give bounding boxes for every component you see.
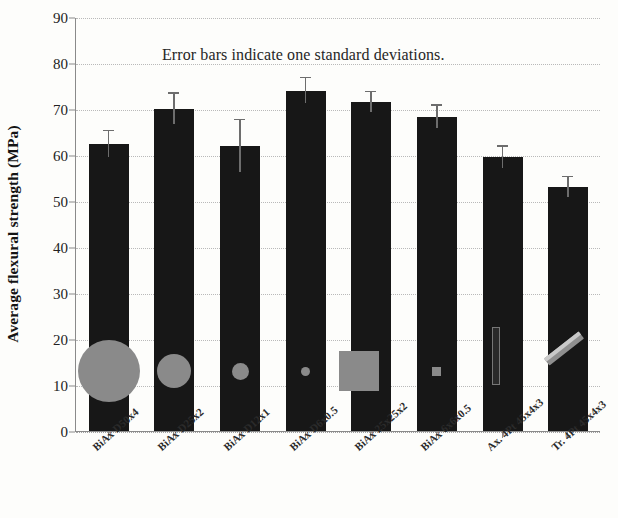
bar-group xyxy=(351,17,391,431)
bar-group xyxy=(548,17,588,431)
error-bar-cap-top xyxy=(497,145,508,146)
error-bar-cap-top xyxy=(300,77,311,78)
y-axis-tick-mark xyxy=(69,248,75,249)
error-bar xyxy=(370,92,372,112)
bar-group xyxy=(154,17,194,431)
y-axis-tick-label: 60 xyxy=(30,148,68,165)
y-axis-tick-label: 20 xyxy=(30,332,68,349)
y-axis-tick-mark xyxy=(69,294,75,295)
bar-group xyxy=(286,17,326,431)
error-bar-cap-top xyxy=(234,119,245,120)
error-bar xyxy=(436,106,438,128)
error-bar-cap-top xyxy=(562,176,573,177)
bar xyxy=(417,117,457,431)
bar-group xyxy=(89,17,129,431)
bar xyxy=(220,146,260,431)
bar-group xyxy=(417,17,457,431)
plot-area: Error bars indicate one standard deviati… xyxy=(75,18,600,432)
y-axis-tick-mark xyxy=(69,18,75,19)
y-axis-tick-mark xyxy=(69,110,75,111)
y-axis-tick-label: 30 xyxy=(30,286,68,303)
y-axis-tick-label: 40 xyxy=(30,240,68,257)
y-axis-tick-mark xyxy=(69,64,75,65)
bar xyxy=(548,187,588,431)
error-bar xyxy=(567,177,569,197)
y-axis-tick-label: 70 xyxy=(30,102,68,119)
bar xyxy=(483,157,523,431)
specimen-overlay-square xyxy=(432,367,441,376)
specimen-overlay-circle xyxy=(78,340,140,402)
error-bar-cap-top xyxy=(103,130,114,131)
y-axis-title: Average flexural strength (MPa) xyxy=(4,69,22,399)
error-bar-cap-top xyxy=(431,104,442,105)
y-axis-tick-mark xyxy=(69,432,75,433)
bar-group xyxy=(220,17,260,431)
y-axis-tick-mark xyxy=(69,202,75,203)
error-bar xyxy=(108,131,110,157)
specimen-overlay-circle xyxy=(232,363,249,380)
error-bar-cap-top xyxy=(365,91,376,92)
y-axis-tick-label: 90 xyxy=(30,10,68,27)
specimen-overlay-vertical-bar xyxy=(492,327,500,385)
y-axis-tick-mark xyxy=(69,156,75,157)
y-axis-tick-label: 10 xyxy=(30,378,68,395)
error-bar xyxy=(305,78,307,103)
bar-group xyxy=(483,17,523,431)
bar xyxy=(286,91,326,431)
y-axis-tick-mark xyxy=(69,386,75,387)
specimen-overlay-circle xyxy=(301,367,310,376)
y-axis-tick-label: 50 xyxy=(30,194,68,211)
error-bar xyxy=(239,120,241,172)
error-bar-cap-top xyxy=(168,92,179,93)
y-axis-tick-mark xyxy=(69,340,75,341)
y-axis-tick-label: 80 xyxy=(30,56,68,73)
error-bar xyxy=(173,94,175,124)
gridline xyxy=(76,432,600,433)
specimen-overlay-square xyxy=(339,351,379,391)
error-bar xyxy=(502,147,504,168)
flexural-strength-bar-chart: Average flexural strength (MPa) Error ba… xyxy=(0,0,618,518)
y-axis-tick-label: 0 xyxy=(30,424,68,441)
